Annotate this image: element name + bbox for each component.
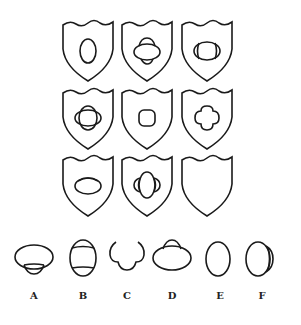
shield-r3c2	[120, 154, 174, 218]
option-label: C	[107, 290, 147, 301]
top-inner-arc-icon	[72, 247, 94, 249]
horizontal-ellipse-icon	[15, 245, 53, 269]
option-label: D	[152, 290, 192, 301]
shield-r2c1	[61, 87, 115, 151]
shield-outline-icon	[182, 156, 232, 217]
top-cap-icon	[163, 240, 181, 249]
vertical-ellipse-icon	[80, 39, 96, 63]
shield-outline-icon	[182, 21, 232, 82]
left-inner-arc-icon	[198, 43, 200, 59]
vertical-ellipse-icon	[206, 242, 230, 276]
shield-r3c1	[61, 154, 115, 218]
shield-r1c2	[120, 19, 174, 83]
puzzle-grid	[0, 0, 301, 230]
option-label: A	[14, 290, 54, 301]
shield-outline-icon	[122, 21, 172, 82]
shield-outline-icon	[122, 156, 172, 217]
open-three-lobed-curve-icon	[110, 242, 144, 270]
rounded-square-icon	[139, 110, 155, 126]
option-label: F	[242, 290, 282, 301]
option-label: B	[63, 290, 103, 301]
vertical-ellipse-icon	[70, 240, 96, 276]
vertical-ellipse-icon	[139, 172, 155, 198]
shield-r3c3-question	[180, 154, 234, 218]
right-inner-arc-icon	[215, 43, 217, 59]
shield-outline-icon	[122, 89, 172, 150]
shield-r1c3	[180, 19, 234, 83]
horizontal-ellipse-icon	[153, 246, 191, 270]
shield-r1c1	[61, 19, 115, 83]
shield-r2c2	[120, 87, 174, 151]
quatrefoil-icon	[195, 106, 219, 130]
option-label: E	[200, 290, 240, 301]
option-c[interactable]: C	[107, 238, 147, 282]
shield-outline-icon	[63, 89, 113, 150]
shield-outline-icon	[63, 156, 113, 217]
bottom-inner-arc-icon	[72, 267, 94, 268]
option-f[interactable]: F	[242, 238, 282, 282]
shield-r2c3	[180, 87, 234, 151]
horizontal-ellipse-icon	[134, 44, 160, 60]
right-cap-inner-icon	[268, 248, 270, 270]
shield-outline-icon	[63, 21, 113, 82]
option-d[interactable]: D	[152, 238, 192, 282]
option-b[interactable]: B	[63, 238, 103, 282]
option-a[interactable]: A	[14, 238, 54, 282]
shield-outline-icon	[182, 89, 232, 150]
option-e[interactable]: E	[200, 238, 240, 282]
